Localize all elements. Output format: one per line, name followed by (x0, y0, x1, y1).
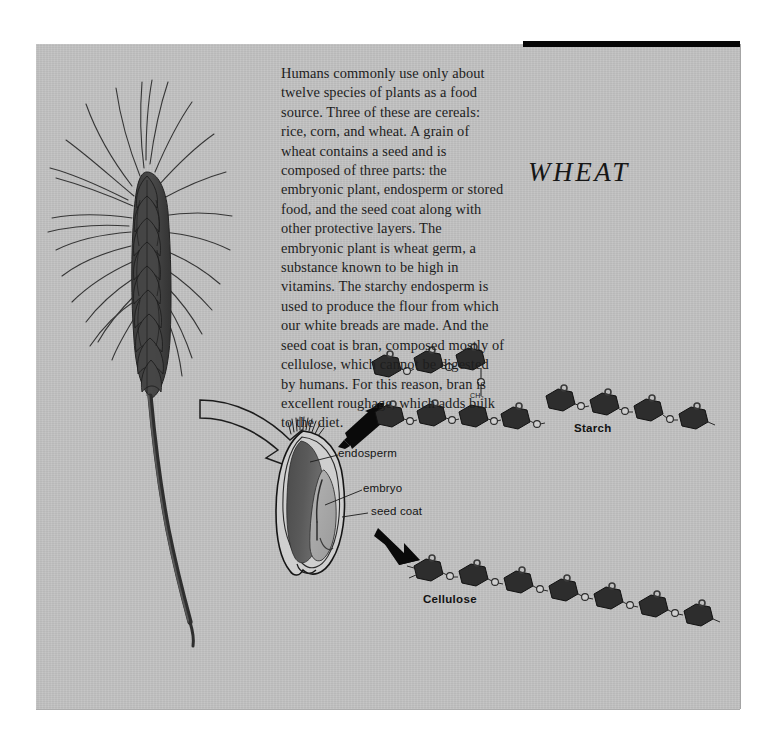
label-cellulose: Cellulose (423, 593, 477, 605)
figure-page: Humans commonly use only about twelve sp… (0, 0, 775, 743)
ch2-text: CH (470, 392, 481, 399)
label-starch: Starch (574, 422, 612, 434)
label-embryo: embryo (363, 482, 402, 494)
ch2-subscript: 2 (481, 395, 484, 401)
body-paragraph: Humans commonly use only about twelve sp… (281, 64, 505, 433)
label-seed-coat: seed coat (371, 505, 422, 517)
panel-right-edge (740, 44, 741, 709)
label-endosperm: endosperm (338, 447, 397, 459)
label-ch2-branch-group: CH2 (470, 392, 484, 401)
page-title: WHEAT (528, 157, 630, 188)
top-rule (523, 41, 740, 47)
panel-bottom-edge (36, 709, 740, 710)
